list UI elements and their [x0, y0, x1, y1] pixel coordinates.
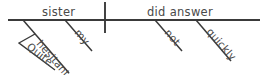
subject-word: sister — [42, 5, 75, 19]
sentence-diagram-canvas: sister did answer hesitant Quite my not … — [0, 0, 266, 75]
modifier-word-quickly: quickly — [204, 25, 238, 62]
modifier-word-my: my — [72, 26, 92, 47]
modifier-word-not: not — [162, 26, 183, 47]
sentence-diagram-svg: sister did answer hesitant Quite my not … — [0, 0, 266, 75]
predicate-word: did answer — [147, 5, 213, 19]
